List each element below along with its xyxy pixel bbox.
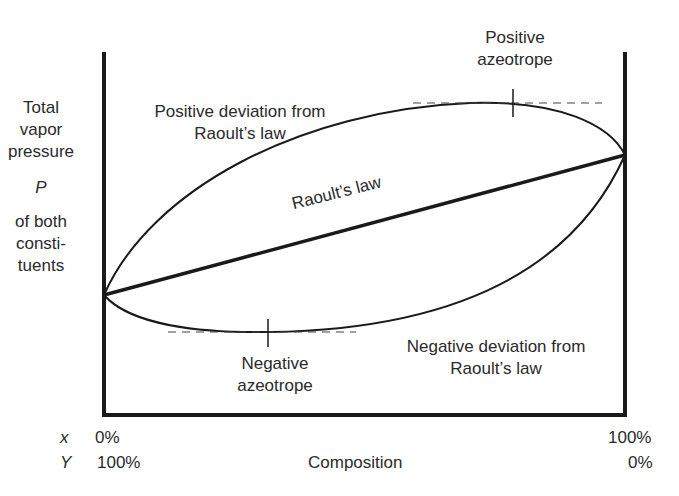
x-left-label: 0% (95, 427, 120, 449)
label-line: azeotrope (455, 49, 575, 71)
label-line: Positive (455, 27, 575, 49)
y-axis-label-line: pressure (2, 141, 80, 163)
label-line: Raoult’s law (135, 123, 345, 145)
y-axis-label-line: tuents (2, 255, 80, 277)
negative-azeotrope-label: Negative azeotrope (215, 353, 335, 397)
diagram-canvas (0, 0, 679, 496)
label-line: Negative (215, 353, 335, 375)
label-line: Raoult’s law (378, 358, 614, 380)
negative-deviation-label: Negative deviation from Raoult’s law (378, 336, 614, 380)
y-axis-label-line: Total (2, 97, 80, 119)
label-line: Positive deviation from (135, 101, 345, 123)
y-symbol-label: Y (60, 452, 71, 474)
y-axis-label-line: of both (2, 211, 80, 233)
y-axis-label-line: vapor (2, 119, 80, 141)
label-line: azeotrope (215, 375, 335, 397)
positive-azeotrope-label: Positive azeotrope (455, 27, 575, 71)
y-axis-label-line: consti- (2, 233, 80, 255)
x-right-label: 100% (608, 427, 651, 449)
y-left-label: 100% (97, 452, 140, 474)
positive-deviation-label: Positive deviation from Raoult’s law (135, 101, 345, 145)
y-right-label: 0% (628, 452, 653, 474)
label-line: Negative deviation from (378, 336, 614, 358)
x-axis-title: Composition (308, 452, 403, 474)
y-axis-symbol: P (2, 177, 80, 199)
x-symbol-label: x (60, 427, 69, 449)
y-axis-label: Total vapor pressure P of both consti- t… (2, 97, 80, 277)
